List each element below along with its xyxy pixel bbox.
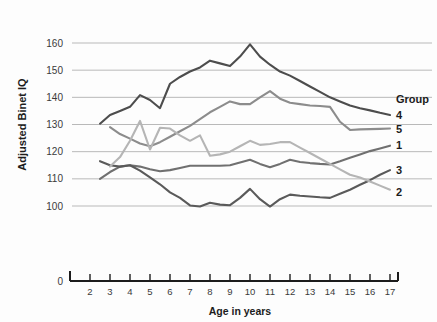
y-axis-tick-label: 100 — [46, 201, 63, 212]
y-axis-tick-label: 120 — [46, 146, 63, 157]
x-axis-tick-label: 16 — [365, 286, 376, 297]
legend-title: Group — [396, 93, 429, 105]
y-axis-title: Adjusted Binet IQ — [16, 78, 28, 171]
series-line-5 — [110, 91, 390, 146]
series-line-4 — [100, 44, 390, 123]
x-axis-tick-label: 3 — [107, 286, 112, 297]
x-axis-tick-label: 6 — [167, 286, 172, 297]
x-axis-tick-label: 14 — [325, 286, 336, 297]
y-axis-tick-label: 110 — [47, 173, 63, 184]
x-axis-tick-label: 15 — [345, 286, 356, 297]
x-axis-tick-label: 12 — [285, 286, 296, 297]
x-axis-tick-label: 11 — [265, 286, 275, 297]
legend-label-2[interactable]: 2 — [396, 186, 402, 198]
x-axis-title: Age in years — [209, 305, 272, 317]
x-axis-tick-label: 7 — [187, 286, 192, 297]
x-axis-tick-label: 2 — [87, 286, 92, 297]
chart-container: 1001101201301401501600Adjusted Binet IQ2… — [0, 0, 437, 322]
x-axis-tick-label: 13 — [305, 286, 316, 297]
y-axis-tick-label: 160 — [46, 38, 63, 49]
legend: Group45132 — [396, 93, 429, 198]
legend-label-1[interactable]: 1 — [396, 139, 402, 151]
y-axis-tick-label: 150 — [46, 65, 63, 76]
legend-label-3[interactable]: 3 — [396, 164, 402, 176]
y-axis-tick-label: 140 — [46, 92, 63, 103]
x-axis-tick-label: 9 — [227, 286, 232, 297]
x-axis-tick-label: 17 — [385, 286, 396, 297]
line-chart: 1001101201301401501600Adjusted Binet IQ2… — [0, 0, 437, 322]
axes: 234567891011121314151617 — [70, 271, 398, 297]
x-axis-tick-label: 10 — [245, 286, 256, 297]
legend-label-5[interactable]: 5 — [396, 123, 402, 135]
x-axis-tick-label: 4 — [127, 286, 132, 297]
x-axis-tick-label: 8 — [207, 286, 212, 297]
y-axis-tick-label: 130 — [46, 119, 63, 130]
legend-label-4[interactable]: 4 — [396, 109, 403, 121]
series-group — [100, 44, 390, 206]
y-gridlines: 100110120130140150160 — [46, 38, 432, 212]
x-axis-tick-label: 5 — [147, 286, 152, 297]
y-axis-zero-label: 0 — [57, 276, 63, 287]
